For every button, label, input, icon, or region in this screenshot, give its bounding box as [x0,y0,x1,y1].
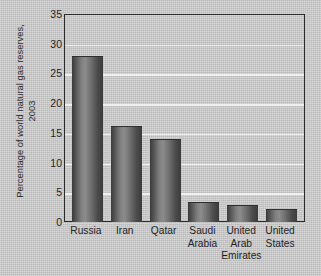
x-tick-label: UnitedArabEmirates [221,225,261,263]
x-tick-label-line: United [260,225,300,238]
y-axis-title-text: Percentage of world natural gas reserves… [14,24,38,198]
x-tick-label: Iran [105,225,145,263]
bar [72,56,103,222]
x-tick-label-line: Qatar [144,225,184,238]
bar [111,126,142,222]
x-tick-label: Qatar [144,225,184,263]
bar-slot [226,14,260,222]
bar-slot [148,14,182,222]
x-tick-label-line: Emirates [221,250,261,263]
bars-container [64,14,305,222]
x-axis-tick-labels: RussiaIranQatarSaudiArabiaUnitedArabEmir… [64,225,305,263]
x-tick-label-line: United [221,225,261,238]
x-tick-label-line: Saudi [182,225,222,238]
x-tick-label-line: States [260,238,300,251]
bar-slot [109,14,143,222]
bar [150,139,181,222]
y-tick-label: 10 [38,158,62,168]
y-tick-label: 25 [38,68,62,78]
x-tick-label-line: Iran [105,225,145,238]
y-tick-label: 30 [38,39,62,49]
bar-slot [187,14,221,222]
x-tick-label: SaudiArabia [182,225,222,263]
y-tick-label: 5 [38,187,62,197]
y-tick-label: 20 [38,98,62,108]
y-axis-title-line-2: 2003 [26,24,38,198]
bar-slot [70,14,104,222]
bar [266,209,297,222]
bar [188,202,219,222]
y-tick-label: 35 [38,9,62,19]
x-tick-label-line: Arabia [182,238,222,251]
y-tick-label: 15 [38,128,62,138]
y-tick-label: 0 [38,217,62,227]
x-tick-label: UnitedStates [260,225,300,263]
bar-chart-figure: Percentage of world natural gas reserves… [0,0,321,276]
y-axis-title-line-1: Percentage of world natural gas reserves… [14,24,25,198]
x-tick-label-line: Russia [66,225,106,238]
x-tick-label-line: Arab [221,238,261,251]
x-tick-label: Russia [66,225,106,263]
bar-slot [265,14,299,222]
bar [227,205,258,222]
